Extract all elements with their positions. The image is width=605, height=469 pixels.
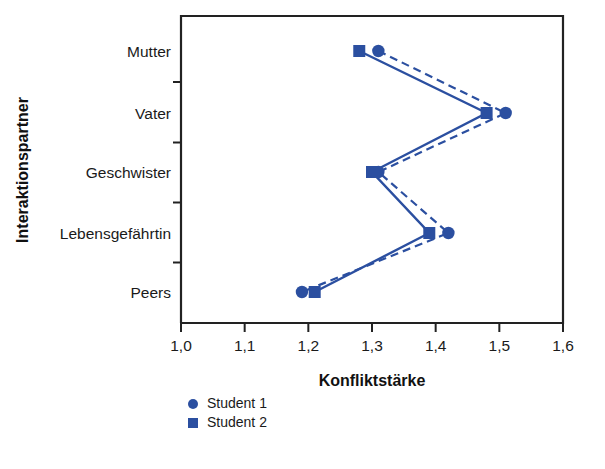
series-line-student-1 (302, 51, 506, 292)
data-point-square-student-2-2 (366, 166, 378, 178)
x-tick-label-4: 1,4 (425, 337, 447, 354)
x-tick-label-5: 1,5 (489, 337, 511, 354)
x-tick-label-3: 1,3 (361, 337, 383, 354)
data-point-circle-student-1-0 (372, 45, 384, 57)
x-tick-label-2: 1,2 (298, 337, 320, 354)
y-category-label-vater: Vater (135, 105, 171, 122)
legend-label-1: Student 2 (207, 414, 267, 430)
data-point-square-student-2-0 (353, 45, 365, 57)
legend: Student 1Student 2 (188, 395, 267, 430)
y-category-label-lebensgef-hrtin: Lebensgefährtin (60, 225, 171, 242)
data-point-square-student-2-4 (309, 286, 321, 298)
x-tick-label-1: 1,1 (234, 337, 256, 354)
x-tick-label-0: 1,0 (170, 337, 192, 354)
data-point-square-student-2-3 (423, 227, 435, 239)
legend-marker-circle-0 (188, 399, 198, 409)
legend-marker-square-1 (188, 418, 198, 428)
x-axis-ticks: 1,01,11,21,31,41,51,6 (170, 323, 574, 354)
x-axis-title: Konfliktstärke (319, 372, 426, 389)
y-axis-ticks: MutterVaterGeschwisterLebensgefährtinPee… (60, 43, 181, 301)
y-category-label-mutter: Mutter (127, 43, 171, 60)
y-category-label-geschwister: Geschwister (86, 164, 171, 181)
x-tick-label-6: 1,6 (552, 337, 574, 354)
y-axis-title: Interaktionspartner (14, 97, 31, 243)
data-point-square-student-2-1 (481, 107, 493, 119)
data-point-circle-student-1-1 (500, 107, 512, 119)
series-lines (302, 51, 506, 292)
legend-label-0: Student 1 (207, 395, 267, 411)
chart-container: 1,01,11,21,31,41,51,6 MutterVaterGeschwi… (0, 0, 605, 469)
y-category-label-peers: Peers (131, 284, 172, 301)
conflict-strength-line-chart: 1,01,11,21,31,41,51,6 MutterVaterGeschwi… (0, 0, 605, 469)
data-point-circle-student-1-3 (442, 227, 454, 239)
series-markers (296, 45, 512, 298)
series-line-student-2 (315, 51, 487, 292)
data-point-circle-student-1-4 (296, 286, 308, 298)
